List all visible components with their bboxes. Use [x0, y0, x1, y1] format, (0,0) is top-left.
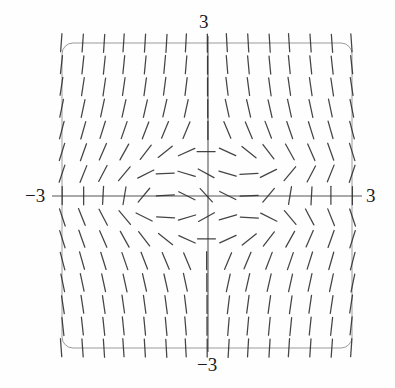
axis-label-top: 3: [199, 12, 209, 31]
figure-canvas: 3 −3 −3 3: [0, 0, 395, 388]
slope-field-plot: [0, 0, 395, 388]
axis-label-left: −3: [25, 186, 45, 205]
slope-segments: [59, 34, 355, 358]
axis-label-right: 3: [366, 186, 376, 205]
axis-label-bottom: −3: [197, 355, 217, 374]
